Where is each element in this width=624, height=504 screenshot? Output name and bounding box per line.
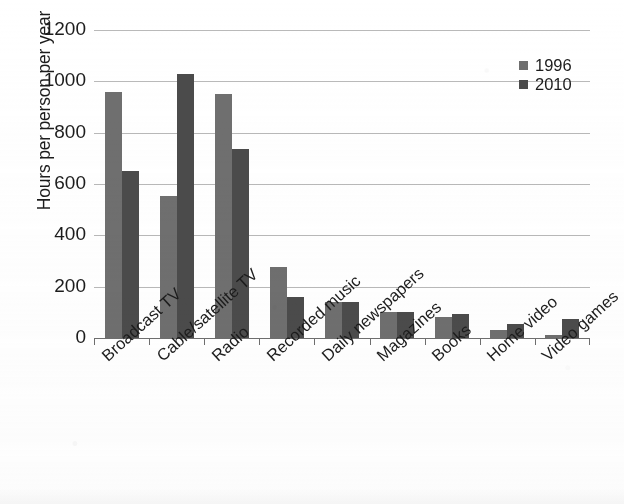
legend-entry-2010: 2010 [519, 75, 572, 94]
bar-chart-figure: Hours per person per year 02004006008001… [0, 0, 624, 504]
legend-entry-1996: 1996 [519, 56, 572, 75]
page-bottom-shadow [0, 488, 624, 504]
x-category-label: Cable/satellite TV [153, 265, 262, 365]
legend: 1996 2010 [519, 56, 572, 94]
legend-swatch-icon-1996 [519, 61, 528, 70]
legend-label-1996: 1996 [535, 56, 572, 75]
x-category-label: Recorded music [263, 271, 364, 365]
x-category-label: Books [428, 320, 475, 365]
legend-label-2010: 2010 [535, 75, 572, 94]
legend-swatch-icon-2010 [519, 80, 528, 89]
x-category-label: Radio [208, 322, 253, 365]
